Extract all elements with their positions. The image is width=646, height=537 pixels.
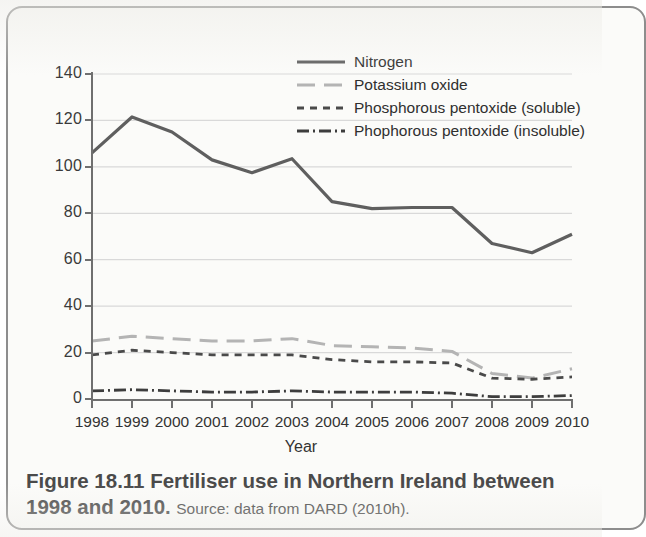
- legend-label-3: Phophorous pentoxide (insoluble): [354, 122, 585, 140]
- figure-caption: Figure 18.11 Fertiliser use in Northern …: [26, 468, 586, 521]
- x-axis-tick-2010: [571, 400, 573, 408]
- y-axis-label-100: 100: [22, 157, 82, 175]
- x-axis-tick-2008: [491, 400, 493, 408]
- legend-label-0: Nitrogen: [354, 53, 413, 71]
- series-line-3: [92, 390, 572, 397]
- caption-source: Source: data from DARD (2010h).: [176, 500, 409, 517]
- y-axis-tick-20: [85, 352, 92, 354]
- x-axis-tick-2007: [451, 400, 453, 408]
- y-axis-tick-60: [85, 259, 92, 261]
- legend-swatch-icon-3: [297, 124, 345, 138]
- chart-area: Quantity ('000 tonnes) 02040608010012014…: [0, 0, 602, 460]
- y-axis-tick-140: [85, 73, 92, 75]
- x-axis-tick-2004: [331, 400, 333, 408]
- x-axis-tick-2003: [291, 400, 293, 408]
- y-axis-label-40: 40: [22, 296, 82, 314]
- y-axis-label-60: 60: [22, 250, 82, 268]
- x-axis-tick-2002: [251, 400, 253, 408]
- x-axis-tick-1999: [131, 400, 133, 408]
- legend-swatch-icon-1: [297, 78, 345, 92]
- x-axis-tick-2006: [411, 400, 413, 408]
- legend-item-3[interactable]: Phophorous pentoxide (insoluble): [297, 119, 585, 142]
- x-axis-tick-2005: [371, 400, 373, 408]
- legend-swatch-icon-2: [297, 101, 345, 115]
- x-axis-title: Year: [0, 438, 602, 456]
- chart-legend: NitrogenPotassium oxidePhosphorous pento…: [297, 50, 585, 142]
- y-axis-tick-100: [85, 166, 92, 168]
- x-axis-tick-1998: [91, 400, 93, 408]
- y-axis-tick-80: [85, 212, 92, 214]
- y-axis-label-120: 120: [22, 110, 82, 128]
- legend-item-2[interactable]: Phosphorous pentoxide (soluble): [297, 96, 585, 119]
- y-axis-tick-40: [85, 305, 92, 307]
- legend-label-1: Potassium oxide: [354, 76, 468, 94]
- legend-label-2: Phosphorous pentoxide (soluble): [354, 99, 581, 117]
- y-axis-tick-120: [85, 119, 92, 121]
- y-axis-label-80: 80: [22, 203, 82, 221]
- y-axis-label-140: 140: [22, 64, 82, 82]
- y-axis-label-0: 0: [22, 389, 82, 407]
- legend-item-1[interactable]: Potassium oxide: [297, 73, 585, 96]
- x-axis-tick-2009: [531, 400, 533, 408]
- x-axis-tick-2001: [211, 400, 213, 408]
- y-axis-label-20: 20: [22, 343, 82, 361]
- x-axis-label-2010: 2010: [545, 413, 599, 431]
- x-axis-tick-2000: [171, 400, 173, 408]
- series-line-1: [92, 336, 572, 378]
- legend-item-0[interactable]: Nitrogen: [297, 50, 585, 73]
- legend-swatch-icon-0: [297, 55, 345, 69]
